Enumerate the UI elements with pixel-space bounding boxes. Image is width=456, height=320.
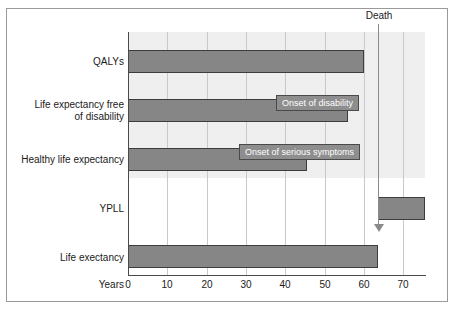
callout-onset-of-disability: Onset of disability — [276, 95, 359, 111]
death-label: Death — [352, 10, 406, 21]
gridline-70 — [403, 32, 404, 275]
bar-ypll — [378, 197, 425, 220]
x-tick-30: 30 — [231, 279, 261, 290]
x-tick-10: 10 — [152, 279, 182, 290]
x-tick-70: 70 — [388, 279, 418, 290]
category-label-ypll: YPLL — [4, 203, 124, 215]
x-tick-20: 20 — [192, 279, 222, 290]
category-label-healthy-life-expectancy: Healthy life expectancy — [2, 154, 124, 166]
bar-qalys — [128, 50, 364, 73]
x-axis-line — [128, 275, 426, 276]
death-arrow-icon — [374, 224, 384, 232]
x-tick-50: 50 — [310, 279, 340, 290]
bar-life-exectancy — [128, 245, 378, 268]
death-marker-line — [378, 24, 379, 226]
callout-onset-of-serious-symptoms: Onset of serious symptoms — [239, 144, 360, 160]
x-tick-60: 60 — [349, 279, 379, 290]
category-label-life-exectancy: Life exectancy — [4, 252, 124, 264]
x-tick-40: 40 — [270, 279, 300, 290]
gridline-60 — [364, 32, 365, 275]
figure-container: QALYs Life expectancy free of disability… — [0, 0, 456, 320]
category-label-qalys: QALYs — [4, 56, 124, 68]
x-tick-0: 0 — [113, 279, 143, 290]
y-axis-line — [128, 32, 129, 275]
category-label-life-expectancy-free-of-disability: Life expectancy free of disability — [4, 99, 124, 123]
figure-caption — [6, 305, 450, 318]
